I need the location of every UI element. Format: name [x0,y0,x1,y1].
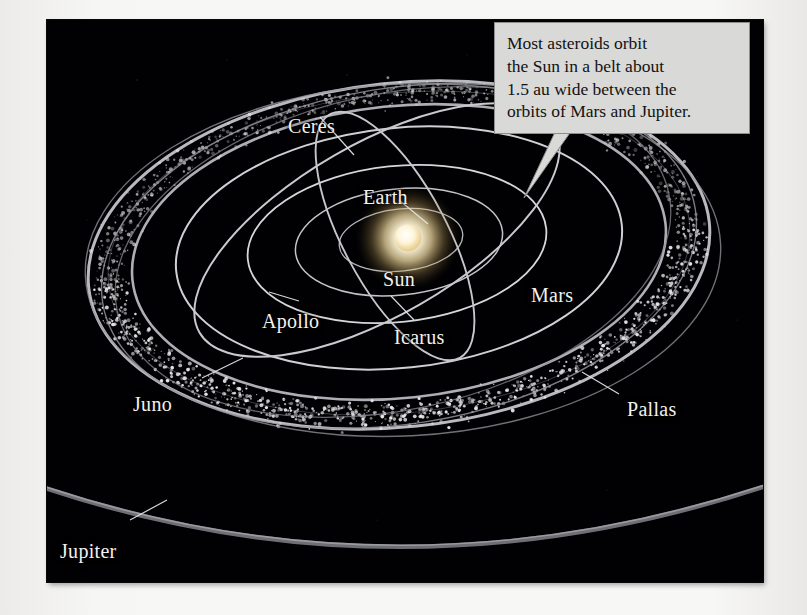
label-mars: Mars [531,284,573,307]
callout-tail [494,130,614,200]
label-jupiter: Jupiter [60,540,117,563]
label-sun: Sun [383,268,415,291]
sun-core [395,225,422,252]
callout-line-1: Most asteroids orbit [507,32,739,55]
callout-line-2: the Sun in a belt about [507,55,739,78]
label-apollo: Apollo [262,310,319,333]
label-juno: Juno [133,393,172,416]
label-ceres: Ceres [288,115,335,138]
callout-line-4: orbits of Mars and Jupiter. [507,100,739,123]
asteroid-belt-callout: Most asteroids orbit the Sun in a belt a… [494,22,750,134]
orbit-jupiter [47,460,763,547]
label-icarus: Icarus [394,326,445,349]
orbit-jupiter-highlight [47,459,763,545]
callout-line-3: 1.5 au wide between the [507,78,739,101]
page-background: Ceres Earth Sun Mars Apollo Icarus Juno … [0,0,807,615]
label-pallas: Pallas [627,398,677,421]
label-earth: Earth [363,186,408,209]
